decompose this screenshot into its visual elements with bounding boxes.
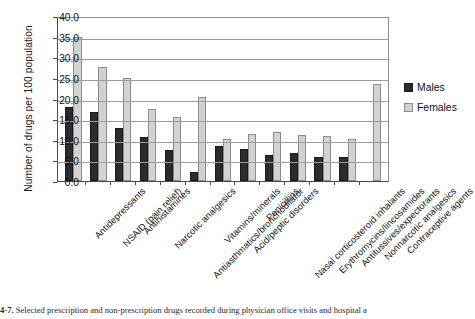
- legend-item: Females: [404, 102, 457, 113]
- bar-group: [136, 18, 161, 181]
- bar-group: [285, 18, 310, 181]
- gridline: [58, 39, 388, 40]
- legend-label: Males: [417, 82, 445, 93]
- gridline: [58, 80, 388, 81]
- y-axis-title: Number of drugs per 100 population: [23, 19, 34, 199]
- gridline: [58, 101, 388, 102]
- bar-females: [148, 109, 156, 181]
- bar-group: [111, 18, 136, 181]
- bar-females: [373, 84, 381, 181]
- bar-females: [198, 97, 206, 181]
- bar-females: [348, 139, 356, 181]
- y-tick-mark: [53, 17, 57, 18]
- gridline: [58, 142, 388, 143]
- bar-group: [211, 18, 236, 181]
- figure-caption: 4-7. Selected prescription and non-presc…: [0, 305, 473, 315]
- bar-males: [265, 155, 273, 181]
- y-tick-label: 40.0: [39, 12, 79, 23]
- males-swatch: [404, 83, 413, 92]
- legend-label: Females: [417, 102, 457, 113]
- bar-group: [335, 18, 360, 181]
- bar-females: [223, 139, 231, 181]
- y-tick-mark: [53, 58, 57, 59]
- y-tick-mark: [53, 161, 57, 162]
- bar-series-container: [58, 18, 388, 181]
- bar-males: [115, 128, 123, 181]
- gridline: [58, 59, 388, 60]
- gridline: [58, 162, 388, 163]
- gridline: [58, 121, 388, 122]
- legend-item: Males: [404, 82, 457, 93]
- bar-females: [173, 117, 181, 181]
- bar-group: [310, 18, 335, 181]
- bar-males: [339, 157, 347, 181]
- y-tick-label: 5.0: [39, 156, 79, 167]
- y-tick-label: 10.0: [39, 135, 79, 146]
- bar-females: [98, 67, 106, 181]
- y-tick-label: 35.0: [39, 32, 79, 43]
- y-tick-mark: [53, 182, 57, 183]
- bar-males: [314, 157, 322, 181]
- bar-males: [290, 153, 298, 181]
- bar-males: [140, 137, 148, 181]
- bar-group: [186, 18, 211, 181]
- y-tick-label: 25.0: [39, 73, 79, 84]
- bar-group: [260, 18, 285, 181]
- y-tick-mark: [53, 38, 57, 39]
- caption-number: 4-7.: [0, 305, 14, 315]
- bar-females: [273, 132, 281, 181]
- y-tick-label: 15.0: [39, 115, 79, 126]
- y-tick-mark: [53, 100, 57, 101]
- y-tick-mark: [53, 141, 57, 142]
- chart-legend: MalesFemales: [404, 82, 457, 122]
- caption-text: Selected prescription and non-prescripti…: [16, 305, 367, 315]
- y-tick-label: 30.0: [39, 53, 79, 64]
- bar-group: [235, 18, 260, 181]
- y-tick-label: 20.0: [39, 94, 79, 105]
- bar-group: [86, 18, 111, 181]
- plot-area: [57, 17, 389, 182]
- x-axis-labels: AntidepressantsNSAID (pain relief)Antihi…: [57, 184, 389, 296]
- females-swatch: [404, 103, 413, 112]
- bar-group: [161, 18, 186, 181]
- bar-males: [190, 172, 198, 181]
- bar-males: [240, 149, 248, 181]
- bar-males: [165, 150, 173, 181]
- bar-group: [360, 18, 385, 181]
- bar-females: [123, 78, 131, 181]
- y-tick-mark: [53, 120, 57, 121]
- y-tick-mark: [53, 79, 57, 80]
